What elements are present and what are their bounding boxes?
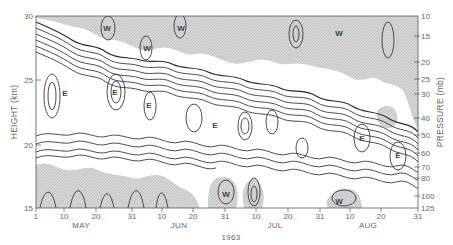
y2-axis-title: PRESSURE (mb) <box>435 77 445 148</box>
x-tick-1: 10 <box>60 212 69 221</box>
label-w-5: W <box>222 190 230 199</box>
y-tick-20: 20 <box>24 141 33 150</box>
p-tick-80: 80 <box>421 174 430 183</box>
month-may: MAY <box>72 221 90 230</box>
label-e-3: E <box>146 101 152 110</box>
x-tick-9: 31 <box>316 212 325 221</box>
plot-area: W W W W E E E E E E W W <box>36 14 418 208</box>
label-e-2: E <box>112 88 118 97</box>
p-tick-25: 25 <box>421 75 430 84</box>
month-aug: AUG <box>359 221 377 230</box>
label-w-3: W <box>177 24 185 33</box>
p-tick-20: 20 <box>421 58 430 67</box>
x-tick-2: 20 <box>92 212 101 221</box>
p-tick-60: 60 <box>421 149 430 158</box>
label-w-4: W <box>335 29 343 38</box>
x-tick-0: 1 <box>34 212 39 221</box>
p-tick-40: 40 <box>421 114 430 123</box>
y-tick-25: 25 <box>24 76 33 85</box>
x-tick-8: 20 <box>284 212 293 221</box>
y-tick-30: 30 <box>24 12 33 21</box>
month-jul: JUL <box>267 221 282 230</box>
p-tick-125: 125 <box>421 204 435 213</box>
p-tick-30: 30 <box>421 90 430 99</box>
label-w-1: W <box>103 24 111 33</box>
p-tick-100: 100 <box>421 192 435 201</box>
contour-chart: W W W W E E E E E E W W 30 25 20 15 HEIG… <box>0 0 453 245</box>
y-axis-title: HEIGHT (km) <box>9 85 19 140</box>
p-tick-15: 15 <box>421 32 430 41</box>
x-tick-11: 20 <box>377 212 386 221</box>
x-tick-3: 31 <box>128 212 137 221</box>
x-axis-year: 1963 <box>222 233 241 242</box>
p-tick-50: 50 <box>421 131 430 140</box>
x-tick-12: 31 <box>414 212 423 221</box>
label-e-6: E <box>395 151 401 160</box>
p-tick-70: 70 <box>421 163 430 172</box>
label-e-4: E <box>212 121 218 130</box>
right-axis: 10 15 20 25 30 40 50 60 70 80 100 125 PR… <box>414 12 445 213</box>
x-tick-7: 10 <box>252 212 261 221</box>
bottom-axis: 1 10 20 31 10 20 31 10 20 31 10 20 31 MA… <box>34 208 423 242</box>
p-tick-10: 10 <box>421 12 430 21</box>
label-e-5: E <box>359 134 365 143</box>
month-jun: JUN <box>171 221 187 230</box>
x-tick-10: 10 <box>346 212 355 221</box>
label-w-6: W <box>335 197 343 206</box>
x-tick-6: 31 <box>221 212 230 221</box>
x-tick-5: 20 <box>189 212 198 221</box>
x-tick-4: 10 <box>158 212 167 221</box>
label-e-1: E <box>62 89 68 98</box>
y-tick-15: 15 <box>24 204 33 213</box>
label-w-2: W <box>143 44 151 53</box>
